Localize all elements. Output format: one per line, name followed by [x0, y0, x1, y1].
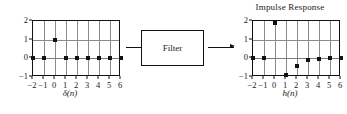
impulse-response-xtickmark [285, 76, 286, 79]
filter-label: Filter [163, 43, 183, 53]
input-signal-xtick-label: 3 [85, 80, 89, 90]
input-signal-ytick-label: 0 [14, 52, 28, 62]
impulse-response-frame [252, 20, 340, 76]
input-signal-xtickmark [109, 76, 110, 79]
input-signal-ytickmark [29, 76, 32, 77]
input-signal-gridline-vertical [88, 21, 89, 75]
impulse-response-ytick-label: −1 [234, 71, 248, 81]
impulse-response-ytickmark [249, 38, 252, 39]
input-signal-gridline-vertical [55, 21, 56, 75]
input-signal-ytickmark [29, 20, 32, 21]
input-signal-plot: δ(n) −2−10123456210−1 [18, 14, 122, 110]
impulse-response-xtickmark [263, 76, 264, 79]
input-signal-data-point [119, 56, 123, 60]
input-signal-xtick-label: 6 [118, 80, 122, 90]
impulse-response-xtick-label: 3 [305, 80, 309, 90]
impulse-response-xtick-label: −2 [247, 80, 256, 90]
impulse-response-gridline-vertical [286, 21, 287, 75]
impulse-response-ytickmark [249, 20, 252, 21]
input-signal-xtick-label: 1 [63, 80, 67, 90]
input-signal-xtick-label: 4 [96, 80, 100, 90]
impulse-response-data-point [328, 56, 332, 60]
impulse-response-xtickmark [296, 76, 297, 79]
impulse-response-data-point [273, 21, 277, 25]
impulse-response-gridline-vertical [308, 21, 309, 75]
input-signal-gridline-vertical [66, 21, 67, 75]
input-signal-data-point [64, 56, 68, 60]
impulse-response-xtickmark [340, 76, 341, 79]
impulse-response-xtick-label: 2 [294, 80, 298, 90]
input-signal-data-point [53, 38, 57, 42]
input-signal-xtick-label: 0 [52, 80, 56, 90]
impulse-response-gridline-vertical [264, 21, 265, 75]
input-signal-xtickmark [76, 76, 77, 79]
impulse-response-xtick-label: 0 [272, 80, 276, 90]
input-signal-xtickmark [87, 76, 88, 79]
input-signal-gridline-vertical [77, 21, 78, 75]
input-plot-frame [32, 20, 120, 76]
input-signal-data-point [42, 56, 46, 60]
impulse-response-data-point [295, 64, 299, 68]
input-signal-xtick-label: −1 [38, 80, 47, 90]
impulse-response-gridline-vertical [275, 21, 276, 75]
input-signal-ytickmark [29, 38, 32, 39]
impulse-response-ytickmark [249, 76, 252, 77]
impulse-response-data-point [317, 57, 321, 61]
input-signal-xtickmark [120, 76, 121, 79]
output-arrow [208, 47, 234, 48]
input-signal-xtickmark [43, 76, 44, 79]
impulse-response-title: Impulse Response [238, 2, 342, 12]
impulse-response-ytickmark [249, 57, 252, 58]
impulse-response-gridline-vertical [319, 21, 320, 75]
input-signal-data-point [86, 56, 90, 60]
impulse-response-ytick-label: 2 [234, 15, 248, 25]
impulse-response-data-point [339, 56, 343, 60]
input-signal-gridline-horizontal [33, 40, 119, 41]
input-signal-gridline-vertical [44, 21, 45, 75]
input-signal-data-point [97, 56, 101, 60]
impulse-response-xtickmark [307, 76, 308, 79]
input-signal-xtick-label: 2 [74, 80, 78, 90]
input-signal-ytick-label: −1 [14, 71, 28, 81]
impulse-response-xtick-label: 6 [338, 80, 342, 90]
input-signal-data-point [75, 56, 79, 60]
input-signal-gridline-vertical [110, 21, 111, 75]
impulse-response-data-point [262, 56, 266, 60]
input-signal-ytick-label: 2 [14, 15, 28, 25]
filter-block[interactable]: Filter [141, 30, 204, 66]
input-signal-data-point [108, 56, 112, 60]
input-signal-xtickmark [65, 76, 66, 79]
impulse-response-gridline-horizontal [253, 40, 339, 41]
impulse-response-xtickmark [318, 76, 319, 79]
impulse-response-xtickmark [274, 76, 275, 79]
impulse-response-xtick-label: 1 [283, 80, 287, 90]
impulse-response-data-point [306, 58, 310, 62]
impulse-response-gridline-vertical [330, 21, 331, 75]
impulse-response-xtickmark [329, 76, 330, 79]
impulse-response-plot: Impulse Response h(n) −2−10123456210−1 [238, 14, 342, 110]
input-signal-xtickmark [54, 76, 55, 79]
input-signal-xtick-label: 5 [107, 80, 111, 90]
input-signal-gridline-vertical [99, 21, 100, 75]
input-signal-ytickmark [29, 57, 32, 58]
impulse-response-ytick-label: 1 [234, 34, 248, 44]
input-signal-xtick-label: −2 [27, 80, 36, 90]
input-signal-xtickmark [98, 76, 99, 79]
input-signal-ytick-label: 1 [14, 34, 28, 44]
impulse-response-xtick-label: 4 [316, 80, 320, 90]
impulse-response-xtick-label: −1 [258, 80, 267, 90]
impulse-response-xtick-label: 5 [327, 80, 331, 90]
impulse-response-ytick-label: 0 [234, 52, 248, 62]
figure-canvas: δ(n) −2−10123456210−1 Filter Impulse Res… [0, 0, 347, 114]
